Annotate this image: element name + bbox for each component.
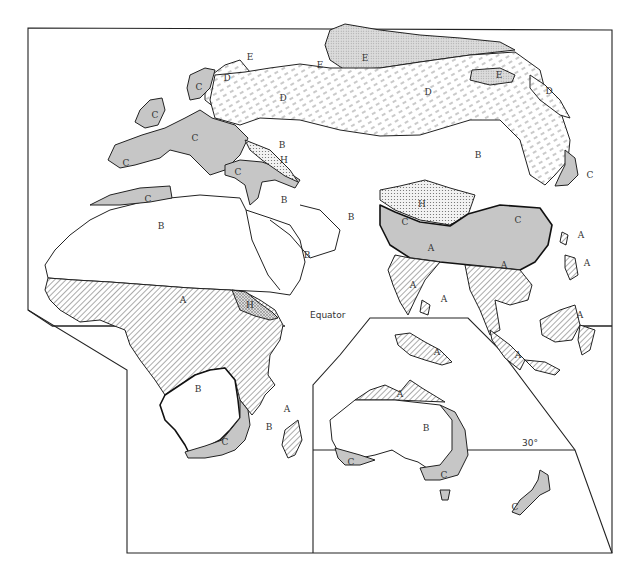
label-ethiopia-h: H — [246, 300, 254, 310]
tasmania-region-c — [440, 490, 450, 500]
new-guinea-region-a — [395, 333, 452, 365]
label-scandinavia-d: D — [223, 73, 230, 83]
label-sw-australia-c: C — [348, 457, 355, 467]
label-middle-east-b: B — [281, 195, 288, 205]
label-arctic-e: E — [362, 53, 369, 63]
label-western-europe-c: C — [192, 133, 199, 143]
taiwan-region-a — [560, 232, 568, 245]
label-caucasus-h: H — [280, 155, 288, 165]
label-south-africa-c: C — [222, 437, 229, 447]
label-sri-lanka-a: A — [440, 294, 448, 304]
label-madagascar-a: A — [283, 404, 291, 414]
java-region-a — [525, 360, 560, 375]
label-se-australia-c: C — [441, 470, 448, 480]
label-siberia-d: D — [424, 87, 431, 97]
label-india-north-c: C — [402, 217, 409, 227]
label-philippines-a: A — [583, 258, 591, 268]
climate-map: Equator 30° C D E C C C C C H D D E E — [0, 0, 639, 577]
label-mongolia-b: B — [475, 150, 482, 160]
label-southern-africa-b: B — [195, 384, 202, 394]
lat-30-label: 30° — [522, 438, 538, 448]
label-japan-c: C — [587, 170, 594, 180]
label-borneo-a: A — [576, 310, 584, 320]
label-norway-c: C — [196, 82, 203, 92]
label-southeast-asia-a: A — [500, 260, 508, 270]
label-india-south-a: A — [409, 280, 417, 290]
label-indonesia-a: A — [514, 350, 522, 360]
equator-label: Equator — [310, 310, 346, 320]
label-new-guinea-a: A — [433, 347, 441, 357]
british-isles-region-c — [135, 98, 165, 128]
label-taiwan-a: A — [577, 230, 585, 240]
label-east-siberia-e: E — [496, 70, 503, 80]
label-balkans-c: C — [235, 167, 242, 177]
label-central-africa-a: A — [179, 295, 187, 305]
label-arabia-b: B — [304, 250, 311, 260]
label-central-asia-b: B — [279, 140, 286, 150]
label-north-africa-c: C — [145, 194, 152, 204]
label-sahara-b: B — [158, 221, 165, 231]
label-china-c: C — [515, 215, 522, 225]
label-australia-b: B — [423, 423, 430, 433]
label-iran-b: B — [348, 212, 355, 222]
label-russia-d: D — [279, 93, 286, 103]
label-arctic-e2: E — [317, 60, 324, 70]
sahara-region-b — [45, 195, 305, 295]
borneo-region-a — [540, 305, 580, 342]
sri-lanka-region-a — [420, 300, 430, 315]
philippines-region-a — [565, 255, 578, 280]
madagascar-region-a — [282, 420, 302, 458]
label-kamchatka-d: D — [545, 86, 552, 96]
label-iberia-c: C — [123, 158, 130, 168]
label-india-a: A — [427, 243, 435, 253]
label-tibet-h: H — [418, 199, 426, 209]
label-north-australia-a: A — [396, 389, 404, 399]
label-british-isles-c: C — [152, 110, 159, 120]
label-new-zealand-c: C — [512, 502, 519, 512]
label-madagascar-b: B — [266, 422, 273, 432]
sulawesi-region-a — [578, 325, 595, 355]
label-scandinavia-e: E — [247, 52, 254, 62]
